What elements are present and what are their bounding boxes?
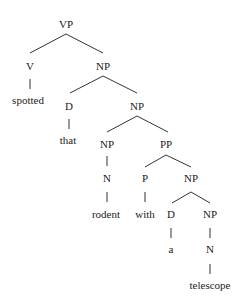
- node-p: P: [142, 172, 148, 184]
- edge-np-np: [103, 76, 137, 93]
- syntax-tree: VP V spotted NP D that NP NP PP N rodent…: [0, 0, 237, 305]
- node-n2: N: [206, 243, 214, 255]
- tree-edges: [30, 34, 210, 274]
- leaf-that: that: [60, 134, 77, 146]
- node-vp: VP: [59, 18, 73, 30]
- leaf-telescope: telescope: [190, 279, 231, 291]
- node-np2: NP: [130, 100, 144, 112]
- edge-vp-v: [30, 34, 66, 53]
- node-np3: NP: [100, 138, 114, 150]
- edge-np-np3: [107, 116, 137, 132]
- node-np4: NP: [184, 172, 198, 184]
- edge-np-d: [70, 76, 103, 93]
- leaf-with: with: [135, 208, 155, 220]
- node-pp: PP: [160, 138, 172, 150]
- edge-vp-np: [66, 34, 103, 53]
- leaf-spotted: spotted: [12, 94, 44, 106]
- node-np5: NP: [203, 208, 217, 220]
- edge-np4-np: [191, 192, 210, 203]
- leaf-rodent: rodent: [92, 208, 120, 220]
- edge-pp-np: [166, 155, 191, 167]
- node-d1: D: [65, 100, 73, 112]
- tree-labels: VP V spotted NP D that NP NP PP N rodent…: [12, 18, 230, 291]
- node-v: V: [26, 60, 34, 72]
- edge-np-pp: [137, 116, 168, 132]
- node-d2: D: [167, 208, 175, 220]
- node-n1: N: [103, 172, 111, 184]
- edge-pp-p: [145, 155, 166, 167]
- node-np1: NP: [96, 60, 110, 72]
- leaf-a: a: [169, 243, 174, 255]
- edge-np4-d: [172, 192, 191, 203]
